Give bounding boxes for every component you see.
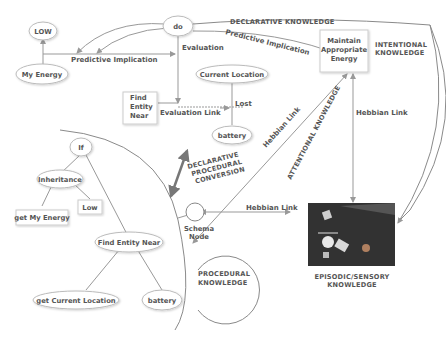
svg-text:get My Energy: get My Energy bbox=[14, 214, 70, 222]
label-evaluation: Evaluation bbox=[182, 44, 224, 52]
label-predictive-implication-2: Predictive Implication bbox=[225, 28, 311, 57]
node-current-location: Current Location bbox=[196, 65, 268, 83]
knowledge-diagram: LOW My Energy do Find Entity Near Curren… bbox=[0, 0, 446, 348]
node-if: If bbox=[70, 138, 92, 156]
svg-text:Find: Find bbox=[130, 94, 147, 102]
caption-intentional-knowledge-2: KNOWLEDGE bbox=[375, 49, 425, 57]
node-battery-bottom: battery bbox=[142, 290, 182, 310]
node-inheritance: Inheritance bbox=[37, 170, 83, 188]
caption-episodic-1: EPISODIC/SENSORY bbox=[314, 273, 389, 281]
label-evaluation-link: Evaluation Link bbox=[160, 109, 221, 117]
caption-conversion: DECLARATIVE PROCEDURAL CONVERSION bbox=[187, 150, 246, 187]
svg-text:Current Location: Current Location bbox=[200, 71, 264, 79]
label-predictive-implication-1: Predictive Implication bbox=[71, 56, 158, 64]
svg-text:Inheritance: Inheritance bbox=[38, 176, 82, 184]
node-schema: Schema Node bbox=[184, 203, 214, 241]
label-hebbian-link-vertical: Hebbian Link bbox=[356, 109, 408, 117]
svg-text:Appropriate: Appropriate bbox=[321, 46, 367, 54]
caption-procedural-knowledge-1: PROCEDURAL bbox=[198, 270, 251, 278]
svg-text:Near: Near bbox=[130, 112, 149, 120]
svg-text:Find Entity Near: Find Entity Near bbox=[98, 239, 161, 247]
caption-intentional-knowledge-1: INTENTIONAL bbox=[375, 41, 428, 49]
node-do: do bbox=[163, 16, 193, 36]
node-low-small: Low bbox=[78, 200, 102, 214]
node-find-entity-near-oval: Find Entity Near bbox=[95, 232, 163, 252]
node-low: LOW bbox=[29, 22, 57, 40]
label-hebbian-link-diagonal: Hebbian Link bbox=[262, 105, 303, 149]
svg-text:Schema: Schema bbox=[184, 225, 214, 233]
svg-text:get Current Location: get Current Location bbox=[36, 297, 116, 305]
label-lost: Lost bbox=[235, 100, 252, 108]
node-get-current-location: get Current Location bbox=[33, 291, 119, 309]
node-get-my-energy: get My Energy bbox=[14, 210, 70, 225]
svg-text:Low: Low bbox=[82, 204, 98, 212]
node-my-energy: My Energy bbox=[16, 64, 68, 84]
node-maintain-appropriate-energy: Maintain Appropriate Energy bbox=[320, 30, 368, 72]
svg-text:Maintain: Maintain bbox=[327, 37, 361, 45]
svg-text:LOW: LOW bbox=[34, 28, 52, 36]
svg-text:Node: Node bbox=[189, 233, 209, 241]
caption-episodic-2: KNOWLEDGE bbox=[327, 281, 377, 289]
procedural-circle bbox=[198, 256, 259, 324]
svg-text:do: do bbox=[173, 23, 183, 31]
svg-text:Entity: Entity bbox=[130, 103, 153, 111]
svg-text:Energy: Energy bbox=[331, 55, 358, 63]
node-find-entity-near-box: Find Entity Near bbox=[123, 92, 157, 124]
svg-text:battery: battery bbox=[218, 132, 247, 140]
caption-declarative-knowledge: DECLARATIVE KNOWLEDGE bbox=[230, 18, 335, 26]
svg-text:My Energy: My Energy bbox=[22, 71, 63, 79]
svg-text:battery: battery bbox=[148, 297, 177, 305]
episodic-image bbox=[308, 203, 395, 266]
caption-procedural-knowledge-2: KNOWLEDGE bbox=[198, 279, 248, 287]
label-hebbian-link-horizontal: Hebbian Link bbox=[246, 204, 298, 212]
node-battery-top: battery bbox=[212, 126, 252, 144]
